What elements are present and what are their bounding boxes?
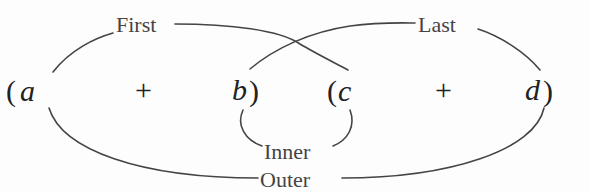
label-inner: Inner bbox=[264, 139, 311, 164]
close-paren-2: ) bbox=[543, 74, 553, 108]
inner-arc-right bbox=[333, 110, 352, 146]
outer-arc-left bbox=[49, 108, 258, 178]
term-b: b bbox=[232, 73, 247, 106]
last-arc-right bbox=[478, 29, 540, 70]
term-a: a bbox=[20, 74, 35, 107]
diagram-svg: ( a + b ) ( c + d ) First Last Inner Out… bbox=[0, 0, 590, 192]
foil-diagram: ( a + b ) ( c + d ) First Last Inner Out… bbox=[0, 0, 590, 192]
plus-2: + bbox=[435, 73, 452, 106]
inner-arc-left bbox=[241, 110, 262, 146]
close-paren-1: ) bbox=[249, 74, 259, 108]
term-d: d bbox=[525, 73, 541, 106]
first-arc-right bbox=[175, 24, 348, 70]
first-arc-left bbox=[53, 33, 113, 72]
open-paren-1: ( bbox=[6, 74, 16, 108]
label-outer: Outer bbox=[260, 167, 311, 192]
label-first: First bbox=[116, 12, 156, 37]
term-c: c bbox=[338, 74, 351, 107]
outer-arc-right bbox=[342, 108, 544, 178]
open-paren-2: ( bbox=[327, 74, 337, 108]
plus-1: + bbox=[135, 73, 152, 106]
label-last: Last bbox=[418, 12, 456, 37]
